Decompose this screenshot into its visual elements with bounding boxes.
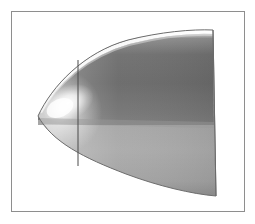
ogive-render-canvas — [0, 0, 255, 224]
figure-root: Grayscale rendered solid of revolution: … — [0, 0, 255, 224]
